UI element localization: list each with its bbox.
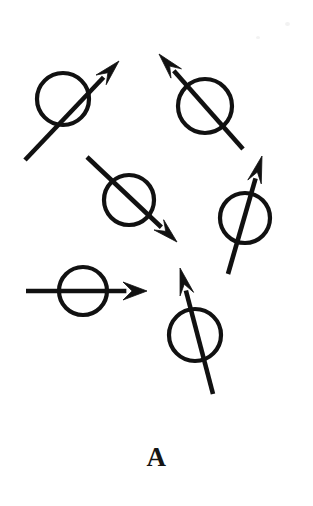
scan-speck-top-right [285, 22, 290, 26]
canvas-background [0, 0, 313, 506]
spin-diagram-canvas [0, 0, 313, 506]
figure-root: A [0, 0, 313, 506]
panel-label: A [0, 444, 313, 471]
scan-speck-upper-right [256, 36, 260, 39]
